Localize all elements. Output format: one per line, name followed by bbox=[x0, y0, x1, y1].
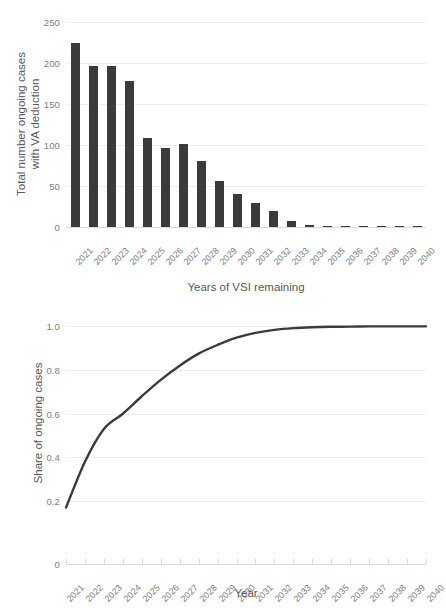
bar-chart-x-tick-label: 2033 bbox=[290, 245, 312, 267]
line-chart-y-tick-label: 0.8 bbox=[30, 365, 60, 376]
line-chart-y-axis-break-label: 0 bbox=[30, 559, 60, 570]
bar-chart-y-axis-title: Total number ongoing cases with VA deduc… bbox=[14, 24, 42, 224]
bar-chart-y-tick-label: 50 bbox=[30, 181, 60, 192]
bar-chart-x-tick-label: 2028 bbox=[200, 245, 222, 267]
line-chart-panel: Share of ongoing cases 0.20.40.60.81.002… bbox=[0, 304, 442, 608]
bar-chart-bar bbox=[143, 138, 152, 227]
line-chart-x-axis-title: Year bbox=[66, 587, 426, 599]
bar-chart-x-tick-label: 2027 bbox=[182, 245, 204, 267]
bar-chart-bar bbox=[197, 161, 206, 227]
bar-chart-x-tick-label: 2032 bbox=[272, 245, 294, 267]
bar-chart-y-tick-label: 100 bbox=[30, 140, 60, 151]
bar-chart-bar bbox=[251, 203, 260, 227]
bar-chart-gridline bbox=[66, 63, 426, 64]
bar-chart-x-tick-label: 2040 bbox=[416, 245, 438, 267]
bar-chart-bar bbox=[179, 144, 188, 227]
bar-chart-x-tick-label: 2038 bbox=[380, 245, 402, 267]
bar-chart-x-tick-label: 2021 bbox=[74, 245, 96, 267]
line-chart-y-tick-label: 0.4 bbox=[30, 452, 60, 463]
bar-chart-x-tick-label: 2031 bbox=[254, 245, 276, 267]
line-chart-y-axis-title: Share of ongoing cases bbox=[31, 333, 45, 513]
line-chart-y-tick-label: 1.0 bbox=[30, 321, 60, 332]
bar-chart-bar bbox=[89, 66, 98, 227]
bar-chart-x-tick-label: 2036 bbox=[344, 245, 366, 267]
bar-chart-x-tick-label: 2025 bbox=[146, 245, 168, 267]
bar-chart-axis-baseline bbox=[66, 227, 426, 228]
bar-chart-bar bbox=[287, 221, 296, 227]
bar-chart-x-tick-label: 2035 bbox=[326, 245, 348, 267]
bar-chart-bar bbox=[71, 43, 80, 228]
bar-chart-panel: Total number ongoing cases with VA deduc… bbox=[0, 0, 442, 304]
bar-chart-x-tick-label: 2037 bbox=[362, 245, 384, 267]
bar-chart-x-tick-label: 2034 bbox=[308, 245, 330, 267]
bar-chart-x-tick-label: 2026 bbox=[164, 245, 186, 267]
bar-chart-bar bbox=[161, 148, 170, 227]
bar-chart-y-axis-title-line-2: with VA deduction bbox=[28, 24, 42, 224]
bar-chart-y-tick-label: 150 bbox=[30, 99, 60, 110]
line-chart-series-path bbox=[66, 326, 426, 507]
bar-chart-bar bbox=[215, 181, 224, 227]
bar-chart-x-axis-title: Years of VSI remaining bbox=[66, 281, 426, 293]
bar-chart-bar bbox=[269, 211, 278, 227]
bar-chart-bar bbox=[125, 81, 134, 227]
bar-chart-y-axis-title-line-1: Total number ongoing cases bbox=[14, 24, 28, 224]
bar-chart-gridline bbox=[66, 145, 426, 146]
bar-chart-x-tick-label: 2039 bbox=[398, 245, 420, 267]
line-chart-x-tick-label: 2040 bbox=[425, 582, 446, 604]
bar-chart-bar bbox=[341, 226, 350, 227]
bar-chart-bar bbox=[305, 225, 314, 227]
bar-chart-x-tick-label: 2023 bbox=[110, 245, 132, 267]
bar-chart-y-tick-label: 0 bbox=[30, 222, 60, 233]
bar-chart-x-tick-label: 2030 bbox=[236, 245, 258, 267]
bar-chart-plot-area: 0501001502002502021202220232024202520262… bbox=[66, 22, 426, 227]
bar-chart-y-tick-label: 200 bbox=[30, 58, 60, 69]
bar-chart-y-tick-label: 250 bbox=[30, 17, 60, 28]
bar-chart-bar bbox=[233, 194, 242, 227]
bar-chart-bar bbox=[323, 226, 332, 227]
bar-chart-bar bbox=[107, 66, 116, 227]
line-chart-y-tick-label: 0.6 bbox=[30, 408, 60, 419]
bar-chart-bar bbox=[359, 226, 368, 227]
bar-chart-x-tick-label: 2022 bbox=[92, 245, 114, 267]
bar-chart-x-tick-label: 2024 bbox=[128, 245, 150, 267]
line-chart-curve bbox=[66, 322, 426, 582]
bar-chart-bar bbox=[413, 226, 422, 227]
bar-chart-bar bbox=[377, 226, 386, 227]
line-chart-y-tick-label: 0.2 bbox=[30, 496, 60, 507]
line-chart-x-tick-mark bbox=[426, 559, 427, 564]
bar-chart-gridline bbox=[66, 22, 426, 23]
bar-chart-gridline bbox=[66, 104, 426, 105]
bar-chart-gridline bbox=[66, 186, 426, 187]
bar-chart-bar bbox=[395, 226, 404, 227]
bar-chart-x-tick-label: 2029 bbox=[218, 245, 240, 267]
line-chart-plot-area: 0.20.40.60.81.00202120222023202420252026… bbox=[66, 322, 426, 512]
